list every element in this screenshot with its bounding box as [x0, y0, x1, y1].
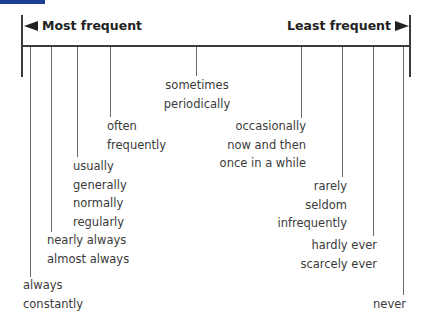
tick-rarely	[342, 47, 343, 177]
tick-never	[403, 47, 404, 295]
tick-always	[30, 47, 31, 277]
group-rarely: rarely seldom infrequently	[277, 177, 347, 233]
arrow-right-icon	[395, 21, 409, 31]
group-hardly-ever: hardly ever scarcely ever	[300, 236, 377, 273]
word: often	[107, 117, 166, 136]
word: periodically	[156, 95, 238, 114]
group-always: always constantly	[23, 276, 83, 313]
word: generally	[73, 176, 127, 195]
least-frequent-header: Least frequent	[287, 18, 409, 33]
word: regularly	[73, 213, 127, 232]
word: usually	[73, 157, 127, 176]
group-often: often frequently	[107, 117, 166, 154]
word: once in a while	[220, 154, 306, 173]
group-occasionally: occasionally now and then once in a whil…	[220, 117, 306, 173]
word: sometimes	[156, 76, 238, 95]
word: always	[23, 276, 83, 295]
frequency-scale-line	[22, 45, 411, 47]
top-accent-bar	[0, 0, 45, 4]
word: rarely	[277, 177, 347, 196]
group-usually: usually generally normally regularly	[73, 157, 127, 231]
word: normally	[73, 194, 127, 213]
group-never: never	[373, 295, 406, 314]
tick-hardly-ever	[373, 47, 374, 236]
word: never	[373, 295, 406, 314]
word: infrequently	[277, 214, 347, 233]
tick-occasionally	[301, 47, 302, 118]
arrow-left-icon	[24, 21, 38, 31]
word: seldom	[277, 196, 347, 215]
word: now and then	[220, 136, 306, 155]
tick-sometimes	[196, 47, 197, 76]
group-nearly-always: nearly always almost always	[47, 231, 129, 268]
tick-often	[110, 47, 111, 117]
least-frequent-label: Least frequent	[287, 18, 391, 33]
word: frequently	[107, 136, 166, 155]
group-sometimes: sometimes periodically	[156, 76, 238, 113]
tick-nearly-always	[51, 47, 52, 232]
word: scarcely ever	[300, 255, 377, 274]
word: occasionally	[220, 117, 306, 136]
most-frequent-label: Most frequent	[42, 18, 142, 33]
tick-usually	[77, 47, 78, 157]
word: constantly	[23, 295, 83, 314]
word: hardly ever	[300, 236, 377, 255]
most-frequent-header: Most frequent	[24, 18, 142, 33]
word: almost always	[47, 250, 129, 269]
word: nearly always	[47, 231, 129, 250]
